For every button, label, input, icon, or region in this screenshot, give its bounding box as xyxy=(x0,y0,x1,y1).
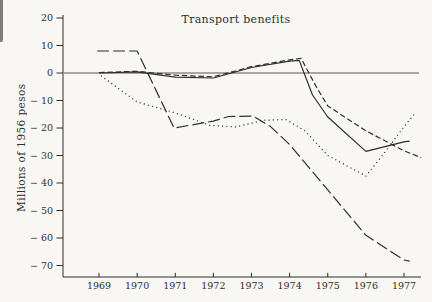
y-tick-label: − 40 xyxy=(30,177,53,188)
figure-page: Transport benefits Millions of 1956 peso… xyxy=(0,0,432,302)
x-tick-label: 1974 xyxy=(278,280,302,291)
y-tick-label: − 60 xyxy=(30,232,53,243)
x-tick-label: 1976 xyxy=(354,280,378,291)
y-tick-label: − 70 xyxy=(30,260,53,271)
y-tick-label: 10 xyxy=(41,40,53,51)
plot-area: 20100− 10− 20− 30− 40− 50− 60− 701969197… xyxy=(0,0,432,302)
y-tick-label: − 50 xyxy=(30,205,53,216)
series-solid-line xyxy=(99,60,410,151)
axis-frame xyxy=(63,15,421,277)
x-tick-label: 1972 xyxy=(201,280,225,291)
y-tick-label: − 30 xyxy=(30,150,53,161)
series-dotted-line xyxy=(101,76,416,176)
y-tick-label: 0 xyxy=(47,67,53,78)
x-tick-label: 1975 xyxy=(316,280,340,291)
x-tick-label: 1973 xyxy=(239,280,263,291)
x-tick-label: 1970 xyxy=(125,280,149,291)
y-tick-label: − 20 xyxy=(30,122,53,133)
x-tick-label: 1971 xyxy=(163,280,187,291)
y-tick-label: 20 xyxy=(41,12,53,23)
y-tick-label: − 10 xyxy=(30,95,53,106)
x-tick-label: 1969 xyxy=(87,280,111,291)
series-long-dash-line xyxy=(97,51,410,261)
x-tick-label: 1977 xyxy=(392,280,416,291)
